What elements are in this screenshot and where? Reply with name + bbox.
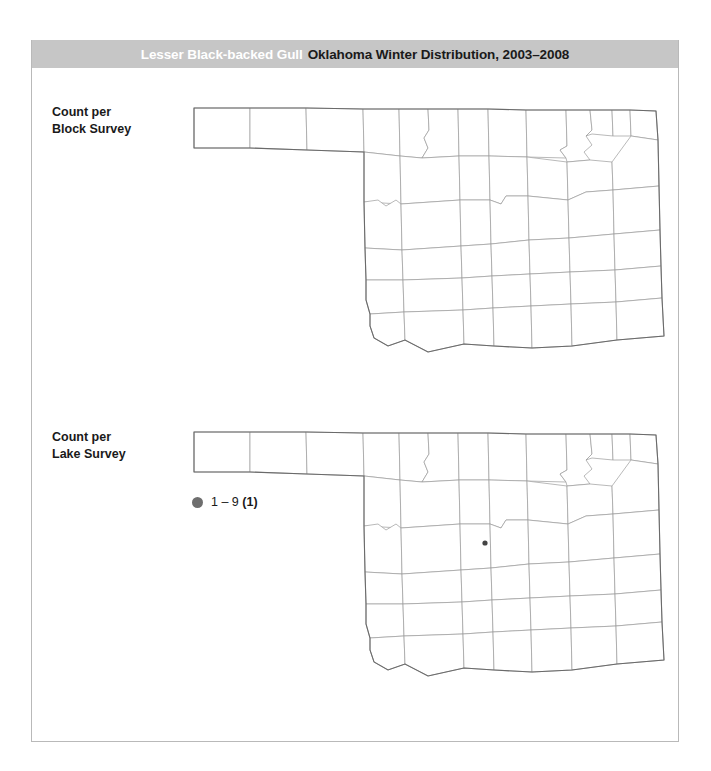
page-title: Oklahoma Winter Distribution, 2003–2008	[308, 47, 570, 62]
survey-data-point	[482, 540, 487, 545]
county-layer	[194, 108, 664, 352]
title-banner: Lesser Black-backed Gull Oklahoma Winter…	[32, 40, 678, 68]
panel-label-line2: Lake Survey	[52, 446, 126, 463]
oklahoma-county-map-svg	[188, 424, 666, 686]
panel-label-line2: Block Survey	[52, 121, 131, 138]
county-layer	[194, 432, 664, 676]
panel-label-block-survey: Count per Block Survey	[52, 104, 131, 138]
oklahoma-county-map-svg	[188, 100, 666, 362]
panel-label-lake-survey: Count per Lake Survey	[52, 429, 126, 463]
species-name: Lesser Black-backed Gull	[141, 47, 303, 62]
panel-label-line1: Count per	[52, 429, 126, 446]
data-point-layer	[482, 540, 487, 545]
panel-label-line1: Count per	[52, 104, 131, 121]
map-block-survey[interactable]	[188, 100, 666, 362]
map-lake-survey[interactable]	[188, 424, 666, 686]
